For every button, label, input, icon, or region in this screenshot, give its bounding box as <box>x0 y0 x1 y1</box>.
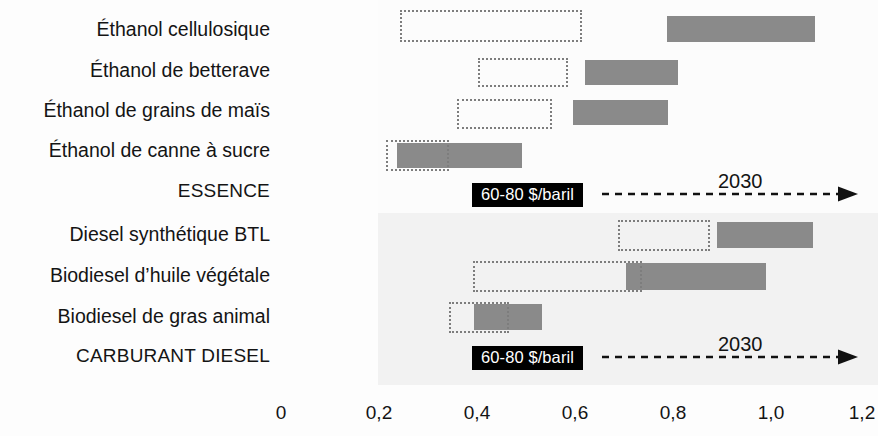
bar-projected-biodiesel-gras-animal <box>449 302 509 333</box>
axis-tick-0: 0 <box>276 403 287 423</box>
category-label-ethanol-canne-sucre: Éthanol de canne à sucre <box>49 139 270 161</box>
category-label-ethanol-betterave: Éthanol de betterave <box>90 59 270 81</box>
category-label-diesel-synthetique-btl: Diesel synthétique BTL <box>69 223 270 245</box>
axis-tick-0-4: 0,4 <box>464 403 490 423</box>
bar-projected-ethanol-grains-mais <box>457 99 552 129</box>
axis-tick-1-0: 1,0 <box>758 403 784 423</box>
bar-projected-diesel-synthetique-btl <box>618 220 710 251</box>
bar-current-ethanol-betterave <box>585 60 678 85</box>
bar-current-ethanol-grains-mais <box>573 100 668 125</box>
price-tag-essence: 60-80 $/baril <box>472 183 583 207</box>
timeline-arrow-essence <box>602 186 862 202</box>
price-tag-carburant-diesel: 60-80 $/baril <box>472 346 583 370</box>
axis-tick-0-8: 0,8 <box>660 403 686 423</box>
bar-projected-ethanol-canne-sucre <box>386 140 449 171</box>
bar-projected-ethanol-betterave <box>478 58 568 87</box>
axis-tick-0-2: 0,2 <box>366 403 392 423</box>
category-label-ethanol-cellulosique: Éthanol cellulosique <box>97 18 270 40</box>
bar-current-biodiesel-huile-vegetale <box>626 263 766 290</box>
bar-projected-ethanol-cellulosique <box>400 10 582 42</box>
axis-tick-0-6: 0,6 <box>562 403 588 423</box>
category-label-ethanol-grains-mais: Éthanol de grains de maïs <box>43 99 270 121</box>
section-label-carburant-diesel: CARBURANT DIESEL <box>76 345 270 367</box>
bar-current-diesel-synthetique-btl <box>717 222 813 248</box>
category-label-biodiesel-gras-animal: Biodiesel de gras animal <box>58 305 270 327</box>
bar-projected-biodiesel-huile-vegetale <box>473 261 642 292</box>
bar-current-ethanol-cellulosique <box>667 16 815 42</box>
chart-root: Éthanol cellulosique Éthanol de betterav… <box>0 0 878 436</box>
category-label-biodiesel-huile-vegetale: Biodiesel d’huile végétale <box>50 264 270 286</box>
axis-tick-1-2: 1,2 <box>849 403 875 423</box>
section-label-essence: ESSENCE <box>178 180 270 202</box>
timeline-arrow-carburant-diesel <box>602 349 862 365</box>
